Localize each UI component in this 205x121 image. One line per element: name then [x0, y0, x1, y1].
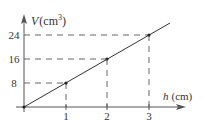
- x-tick-label-2: 2: [104, 110, 110, 121]
- axes: [16, 20, 182, 112]
- volume-height-chart: 24 16 8 1 2 3 V(cm3) h(cm): [0, 0, 205, 121]
- data-point-0: [22, 105, 25, 108]
- y-axis-unit: (cm: [39, 14, 58, 28]
- data-point-3: [147, 33, 150, 36]
- x-axis-unit: (cm): [172, 90, 193, 103]
- data-point-1: [64, 81, 67, 84]
- data-point-2: [105, 57, 108, 60]
- y-axis-label: V(cm3): [31, 13, 66, 28]
- y-axis-unit-close: ): [62, 14, 66, 28]
- x-axis-var: h: [163, 90, 169, 102]
- y-tick-label-8: 8: [11, 77, 17, 89]
- x-axis-label: h(cm): [163, 90, 193, 103]
- x-tick-label-1: 1: [63, 110, 69, 121]
- y-tick-label-24: 24: [9, 29, 21, 41]
- y-tick-label-16: 16: [9, 53, 21, 65]
- x-tick-label-3: 3: [146, 110, 152, 121]
